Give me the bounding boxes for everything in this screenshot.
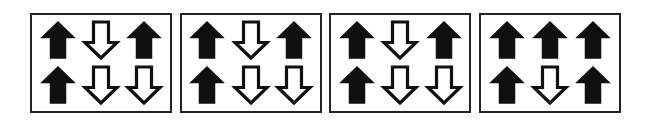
arrow-down-outline-icon (234, 65, 268, 105)
arrow-up-filled-icon (490, 65, 524, 105)
arrow-panels-figure (0, 0, 651, 125)
arrow-down-outline-icon (84, 65, 118, 105)
panel-3 (329, 13, 471, 113)
arrow-shape (128, 22, 160, 58)
arrow-cell (79, 18, 122, 63)
arrow-down-outline-icon (383, 20, 417, 60)
arrow-shape (191, 67, 223, 103)
arrow-cell (123, 18, 166, 63)
arrow-shape (534, 67, 566, 103)
arrow-cell (272, 63, 315, 108)
arrow-cell (229, 63, 272, 108)
arrow-shape (42, 22, 74, 58)
arrow-cell (272, 18, 315, 63)
panel-1 (30, 13, 172, 113)
arrow-cell (379, 18, 422, 63)
arrow-cell (572, 63, 615, 108)
arrow-down-outline-icon (383, 65, 417, 105)
arrow-down-outline-icon (127, 65, 161, 105)
arrow-shape (191, 22, 223, 58)
arrow-shape (42, 67, 74, 103)
arrow-shape (577, 67, 609, 103)
arrow-cell (485, 63, 528, 108)
arrow-up-filled-icon (576, 20, 610, 60)
arrow-down-outline-icon (277, 65, 311, 105)
arrow-cell (379, 63, 422, 108)
arrow-up-filled-icon (41, 65, 75, 105)
arrow-shape (534, 22, 566, 58)
arrow-cell (528, 18, 571, 63)
arrow-shape (428, 67, 460, 103)
arrow-down-outline-icon (84, 20, 118, 60)
arrow-cell (186, 18, 229, 63)
panel-row (30, 13, 621, 113)
panel-4 (479, 13, 621, 113)
arrow-cell (36, 18, 79, 63)
arrow-up-filled-icon (427, 20, 461, 60)
arrow-shape (384, 22, 416, 58)
arrow-cell (123, 63, 166, 108)
arrow-cell (528, 63, 571, 108)
arrow-cell (335, 18, 378, 63)
arrow-cell (572, 18, 615, 63)
arrow-up-filled-icon (576, 65, 610, 105)
arrow-cell (485, 18, 528, 63)
arrow-cell (335, 63, 378, 108)
arrow-cell (229, 18, 272, 63)
arrow-up-filled-icon (533, 20, 567, 60)
arrow-shape (235, 67, 267, 103)
panel-2 (180, 13, 322, 113)
arrow-up-filled-icon (190, 20, 224, 60)
arrow-up-filled-icon (127, 20, 161, 60)
arrow-shape (278, 67, 310, 103)
arrow-shape (341, 22, 373, 58)
arrow-shape (85, 22, 117, 58)
arrow-up-filled-icon (277, 20, 311, 60)
arrow-up-filled-icon (490, 20, 524, 60)
arrow-cell (422, 18, 465, 63)
arrow-shape (491, 67, 523, 103)
arrow-up-filled-icon (340, 20, 374, 60)
arrow-down-outline-icon (427, 65, 461, 105)
arrow-down-outline-icon (533, 65, 567, 105)
arrow-cell (36, 63, 79, 108)
arrow-up-filled-icon (340, 65, 374, 105)
arrow-cell (79, 63, 122, 108)
arrow-shape (341, 67, 373, 103)
arrow-cell (186, 63, 229, 108)
arrow-cell (422, 63, 465, 108)
arrow-shape (235, 22, 267, 58)
arrow-up-filled-icon (41, 20, 75, 60)
arrow-shape (428, 22, 460, 58)
arrow-down-outline-icon (234, 20, 268, 60)
arrow-shape (491, 22, 523, 58)
arrow-shape (278, 22, 310, 58)
arrow-up-filled-icon (190, 65, 224, 105)
arrow-shape (128, 67, 160, 103)
arrow-shape (85, 67, 117, 103)
arrow-shape (577, 22, 609, 58)
arrow-shape (384, 67, 416, 103)
